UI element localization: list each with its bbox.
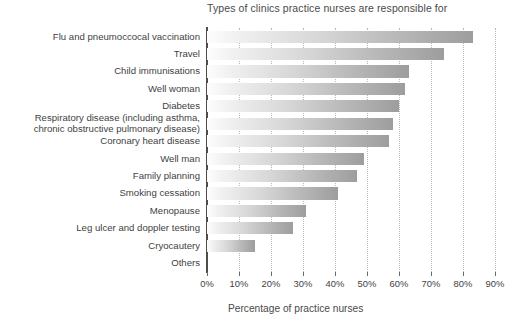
tick-mark-40: [335, 272, 336, 276]
bar-row: [207, 80, 505, 97]
bar: [207, 153, 364, 165]
tick-mark-60: [399, 272, 400, 276]
bar: [207, 65, 409, 77]
y-axis-label: Menopause: [0, 206, 200, 216]
bar-row: [207, 220, 505, 237]
bar: [207, 135, 389, 147]
bar: [207, 170, 357, 182]
x-axis-tick-label: 30%: [294, 278, 313, 289]
plot-area: [207, 28, 505, 272]
y-axis-label: Family planning: [0, 171, 200, 181]
x-axis-tick-label: 60%: [390, 278, 409, 289]
tick-mark-90: [495, 272, 496, 276]
tick-mark-80: [463, 272, 464, 276]
bar: [207, 31, 473, 43]
y-axis-label: Smoking cessation: [0, 188, 200, 198]
bar-rows: [207, 28, 505, 272]
bar-row: [207, 202, 505, 219]
y-axis-label: Well woman: [0, 84, 200, 94]
tick-mark-20: [271, 272, 272, 276]
bar-row: [207, 115, 505, 132]
bar: [207, 83, 405, 95]
y-axis-label: Travel: [0, 49, 200, 59]
y-axis-label: Others: [0, 258, 200, 268]
bar-row: [207, 133, 505, 150]
y-axis-label: Leg ulcer and doppler testing: [0, 223, 200, 233]
bar-row: [207, 254, 505, 271]
x-axis-tick-label: 80%: [454, 278, 473, 289]
bar-row: [207, 45, 505, 62]
y-axis-label: Coronary heart disease: [0, 136, 200, 146]
bar: [207, 118, 393, 130]
x-axis-title: Percentage of practice nurses: [228, 303, 363, 314]
x-axis-tick-label: 40%: [326, 278, 345, 289]
bar-chart: Types of clinics practice nurses are res…: [0, 0, 510, 326]
bar-row: [207, 237, 505, 254]
chart-title: Types of clinics practice nurses are res…: [207, 2, 507, 14]
y-axis-label: Diabetes: [0, 101, 200, 111]
bar: [207, 48, 444, 60]
bar: [207, 187, 338, 199]
tick-mark-30: [303, 272, 304, 276]
bar-row: [207, 28, 505, 45]
y-axis-label: Child immunisations: [0, 66, 200, 76]
bar-row: [207, 63, 505, 80]
tick-mark-10: [239, 272, 240, 276]
x-axis-tick-label: 10%: [230, 278, 249, 289]
y-axis-label: Well man: [0, 154, 200, 164]
x-axis-tick-label: 20%: [262, 278, 281, 289]
y-axis-label: Flu and pneumoccocal vaccination: [0, 32, 200, 42]
tick-mark-0: [207, 272, 208, 276]
bar-row: [207, 98, 505, 115]
x-axis-tick-label: 0%: [200, 278, 214, 289]
tick-mark-70: [431, 272, 432, 276]
bar-row: [207, 167, 505, 184]
y-axis-label: Cryocautery: [0, 241, 200, 251]
y-axis-category-labels: Flu and pneumoccocal vaccinationTravelCh…: [0, 28, 200, 272]
bar: [207, 100, 399, 112]
tick-mark-50: [367, 272, 368, 276]
x-axis-tick-label: 70%: [422, 278, 441, 289]
bar: [207, 240, 255, 252]
bar: [207, 205, 306, 217]
bar-row: [207, 150, 505, 167]
bar-row: [207, 185, 505, 202]
y-axis-label: Respiratory disease (including asthma, c…: [0, 113, 200, 134]
x-axis-tick-label: 90%: [486, 278, 505, 289]
bar: [207, 222, 293, 234]
x-axis-tick-label: 50%: [358, 278, 377, 289]
